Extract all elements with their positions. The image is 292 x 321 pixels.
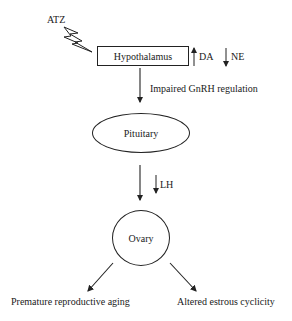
arrow-ovary-cyclicity — [170, 263, 196, 291]
node-ovary: Ovary — [112, 210, 170, 266]
da-label: DA — [199, 51, 213, 63]
atz-label: ATZ — [47, 14, 65, 26]
lightning-bolt-icon — [64, 27, 92, 52]
node-pituitary-label: Pituitary — [124, 128, 158, 139]
arrow-ovary-aging — [88, 263, 113, 291]
outcome-cyclicity: Altered estrous cyclicity — [177, 296, 275, 308]
ne-label: NE — [231, 51, 244, 63]
node-hypothalamus-label: Hypothalamus — [114, 51, 172, 62]
node-hypothalamus: Hypothalamus — [97, 46, 189, 66]
node-pituitary: Pituitary — [92, 113, 190, 153]
edge-label-gnrh: Impaired GnRH regulation — [150, 83, 258, 95]
outcome-aging: Premature reproductive aging — [11, 296, 130, 308]
node-ovary-label: Ovary — [129, 233, 154, 244]
lh-label: LH — [160, 179, 173, 191]
